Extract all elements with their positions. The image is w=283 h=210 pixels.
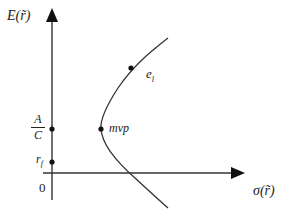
a-over-c-label: A C [31,113,45,142]
point-risk-free [49,159,54,164]
point-e1 [128,65,133,70]
e1-label: el [146,67,154,84]
x-axis-label: σ(r̃) [253,184,275,198]
e1-sub: l [152,75,154,84]
risk-free-sub: f [41,159,43,168]
fraction-numerator: A [31,113,45,126]
point-a-over-c [49,126,54,131]
y-axis-label: E(r̃) [7,9,30,23]
frontier-diagram [0,0,283,210]
fraction-denominator: C [31,129,45,142]
mvp-label: mvp [109,122,129,134]
risk-free-label: rf [36,153,43,168]
point-mvp [98,126,103,131]
origin-label: 0 [39,180,46,196]
x-axis-arrowhead-icon [231,167,245,179]
y-axis-arrowhead-icon [46,8,58,22]
